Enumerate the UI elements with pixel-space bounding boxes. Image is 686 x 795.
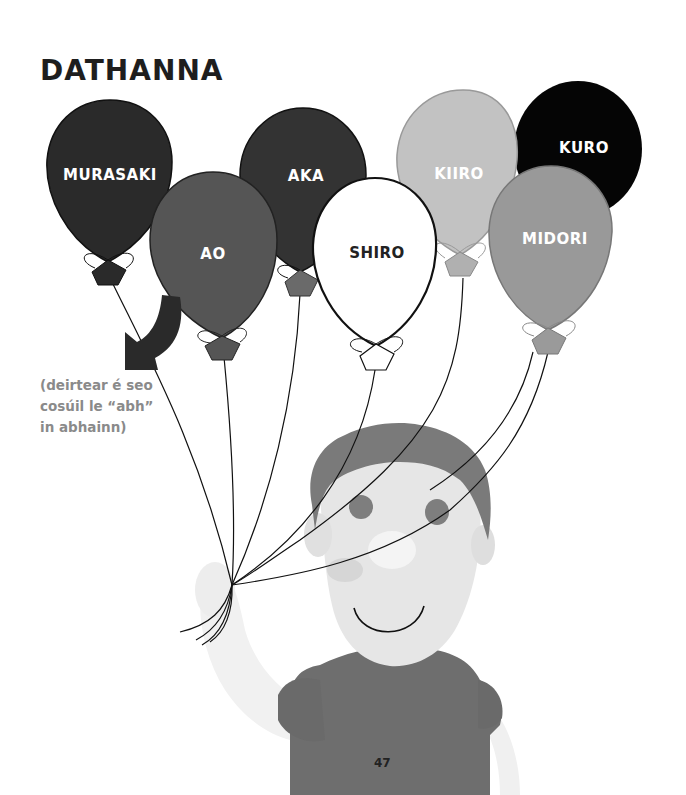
caption-line: cosúil le “abh” (40, 396, 190, 417)
balloon-label-kiiro: KIIRO (434, 165, 484, 183)
page-number: 47 (374, 756, 391, 770)
caption-line: (deirtear é seo (40, 375, 190, 396)
balloon-label-ao: AO (200, 245, 225, 263)
balloon-shiro (313, 178, 436, 370)
balloon-label-midori: MIDORI (522, 230, 588, 248)
pronunciation-note: (deirtear é seo cosúil le “abh” in abhai… (40, 375, 190, 438)
character-figure (195, 423, 520, 795)
pointer-arrow-icon (125, 295, 181, 370)
balloon-midori (489, 166, 612, 354)
book-page: DATHANNA (0, 0, 686, 795)
balloon-label-shiro: SHIRO (349, 244, 405, 262)
balloon-label-murasaki: MURASAKI (63, 166, 157, 184)
caption-line: in abhainn) (40, 417, 190, 438)
balloon-label-kuro: KURO (559, 139, 609, 157)
balloon-label-aka: AKA (288, 167, 324, 185)
